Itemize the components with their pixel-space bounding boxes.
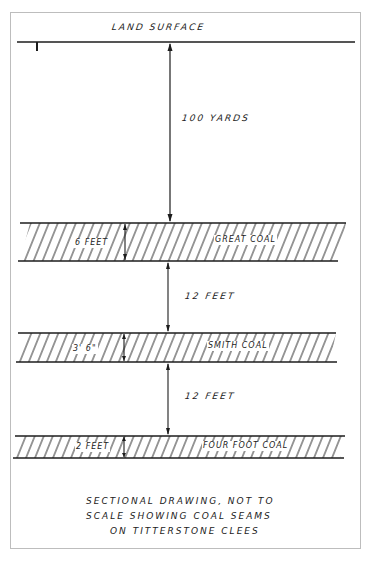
gap-2-label: 12 FEET — [184, 391, 236, 401]
seam-smith-coal — [16, 333, 337, 362]
gap-1-label: 12 FEET — [184, 291, 236, 301]
land-surface-label: LAND SURFACE — [111, 22, 205, 32]
drawing-caption: SECTIONAL DRAWING, NOT TO SCALE SHOWING … — [60, 494, 320, 539]
caption-line-3: ON TITTERSTONE CLEES — [60, 524, 320, 539]
four-foot-coal-thickness: 2 FEET — [75, 442, 110, 452]
caption-line-2: SCALE SHOWING COAL SEAMS — [60, 509, 320, 524]
smith-coal-name: SMITH COAL — [207, 341, 269, 351]
caption-line-1: SECTIONAL DRAWING, NOT TO — [60, 494, 320, 509]
land-surface-line — [17, 42, 355, 51]
seam-great-coal — [18, 223, 346, 261]
four-foot-coal-name: FOUR FOOT COAL — [202, 441, 289, 451]
great-coal-name: GREAT COAL — [214, 235, 277, 245]
great-coal-thickness: 6 FEET — [74, 238, 109, 248]
section-drawing — [0, 0, 367, 562]
depth-dimension-arrow — [168, 43, 173, 222]
seam-four-foot-coal — [13, 436, 345, 458]
smith-coal-thickness: 3' 6" — [72, 344, 98, 354]
gap-dimension-arrow-2 — [166, 363, 170, 435]
depth-label: 100 YARDS — [181, 113, 250, 123]
gap-dimension-arrow-1 — [166, 262, 170, 332]
